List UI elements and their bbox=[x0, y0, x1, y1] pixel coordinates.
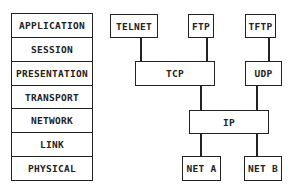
connector-tftp-udp bbox=[268, 37, 270, 61]
osi-layer-session: SESSION bbox=[11, 37, 93, 61]
osi-layer-network: NETWORK bbox=[11, 108, 93, 132]
connector-ip-neta bbox=[200, 133, 202, 156]
connector-telnet-tcp bbox=[140, 37, 142, 61]
protocol-ftp: FTP bbox=[188, 14, 214, 38]
osi-layer-transport: TRANSPORT bbox=[11, 85, 93, 108]
protocol-tcp: TCP bbox=[135, 61, 215, 86]
protocol-ip: IP bbox=[189, 110, 269, 134]
osi-layer-presentation: PRESENTATION bbox=[11, 61, 93, 85]
protocol-telnet: TELNET bbox=[110, 14, 158, 38]
protocol-net-a: NET A bbox=[182, 156, 221, 181]
osi-layer-link: LINK bbox=[11, 132, 93, 156]
protocol-tftp: TFTP bbox=[245, 14, 276, 38]
protocol-net-b: NET B bbox=[244, 156, 282, 181]
connector-tcp-ip bbox=[200, 85, 202, 110]
osi-layer-application: APPLICATION bbox=[11, 13, 93, 37]
protocol-udp: UDP bbox=[245, 61, 282, 86]
connector-ip-netb bbox=[256, 133, 258, 156]
connector-ftp-tcp bbox=[206, 37, 208, 61]
osi-layer-physical: PHYSICAL bbox=[11, 156, 93, 181]
connector-udp-ip bbox=[256, 85, 258, 110]
